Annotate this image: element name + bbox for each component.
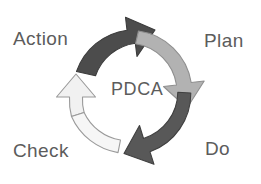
action-to-plan-arrow	[77, 17, 156, 76]
do-to-check-arrow	[124, 92, 191, 164]
center-label-pdca: PDCA	[111, 80, 163, 98]
stage-label-action: Action	[13, 29, 68, 48]
stage-label-check: Check	[13, 141, 69, 160]
stage-label-plan: Plan	[204, 31, 244, 50]
stage-label-do: Do	[205, 139, 230, 158]
pdca-cycle-diagram: Action Plan Do Check PDCA	[0, 0, 261, 184]
